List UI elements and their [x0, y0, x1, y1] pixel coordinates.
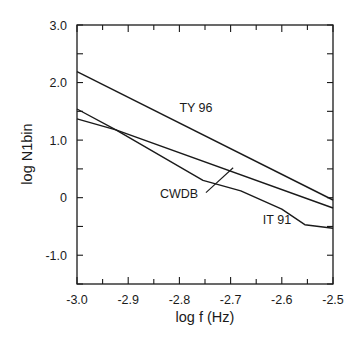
- y-tick-label: 0: [60, 191, 67, 205]
- plot-frame: [77, 25, 333, 284]
- y-axis-label: log N1bin: [19, 123, 35, 184]
- series-line-cwdb: [77, 119, 333, 208]
- series-label-ty-96: TY 96: [179, 101, 212, 115]
- x-tick-label: -2.7: [220, 293, 242, 307]
- y-tick-label: 2.0: [50, 76, 67, 90]
- x-tick-label: -2.9: [117, 293, 139, 307]
- x-tick-label: -3.0: [66, 293, 88, 307]
- x-tick-label: -2.5: [322, 293, 344, 307]
- x-tick-label: -2.6: [271, 293, 293, 307]
- chart: -3.0-2.9-2.8-2.7-2.6-2.53.02.01.00-1.0 T…: [0, 0, 362, 348]
- series-label-it-91: IT 91: [263, 213, 291, 227]
- axes: -3.0-2.9-2.8-2.7-2.6-2.53.02.01.00-1.0: [45, 19, 343, 308]
- series-line-it-91: [77, 109, 333, 228]
- x-tick-label: -2.8: [169, 293, 191, 307]
- x-axis-label: log f (Hz): [176, 309, 235, 325]
- y-tick-label: -1.0: [45, 249, 67, 263]
- series-label-cwdb: CWDB: [160, 187, 198, 201]
- y-tick-label: 1.0: [50, 134, 67, 148]
- series-layer: [77, 72, 333, 229]
- annotations: TY 96CWDBIT 91: [160, 101, 291, 226]
- leader-line: [206, 168, 233, 193]
- y-tick-label: 3.0: [50, 19, 67, 33]
